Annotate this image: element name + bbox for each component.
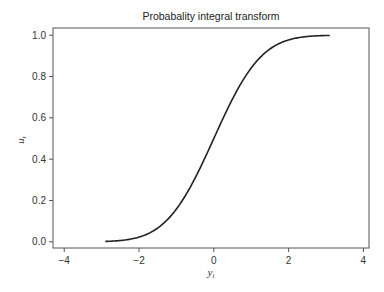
chart-canvas: 0.00.20.40.60.81.0 −4−2024 Probabality i… [0, 0, 384, 292]
y-tick-label: 0.2 [32, 195, 46, 206]
y-tick-label: 0.4 [32, 154, 46, 165]
y-tick-label: 0.8 [32, 71, 46, 82]
x-tick-label: 4 [361, 255, 367, 266]
y-tick-label: 0.6 [32, 112, 46, 123]
x-axis: −4−2024 [59, 248, 367, 266]
chart-title: Probabality integral transform [142, 10, 279, 22]
y-axis: 0.00.20.40.60.81.0 [32, 30, 53, 248]
cdf-curve [105, 35, 329, 241]
y-tick-label: 1.0 [32, 30, 46, 41]
x-tick-label: −2 [133, 255, 145, 266]
x-tick-label: −4 [59, 255, 71, 266]
y-tick-label: 0.0 [32, 236, 46, 247]
x-tick-label: 0 [211, 255, 217, 266]
x-axis-label: yt [207, 266, 216, 280]
y-axis-label: ut [14, 135, 28, 144]
plot-frame [53, 28, 369, 248]
x-tick-label: 2 [286, 255, 292, 266]
